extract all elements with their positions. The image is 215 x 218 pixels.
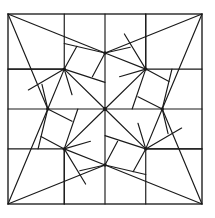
pattern-wedge-top <box>8 14 202 109</box>
center-node <box>103 107 107 111</box>
pattern-wedge-bottom <box>8 109 202 204</box>
pattern-wedge-right <box>105 14 202 204</box>
pattern-wedge-left <box>8 14 105 204</box>
quilt-block-svg <box>0 0 215 218</box>
quilt-block-figure: Geometric quilt block <box>0 0 215 218</box>
